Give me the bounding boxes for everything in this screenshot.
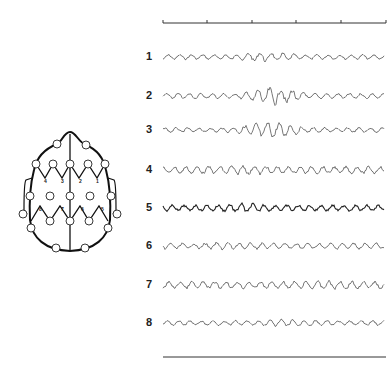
eeg-figure: 43218765 [0,0,391,371]
svg-text:1: 1 [96,178,99,184]
svg-text:3: 3 [61,178,64,184]
svg-text:7: 7 [61,206,64,212]
channel-label-6: 6 [143,239,155,251]
electrode-head-map: 43218765 [19,132,121,252]
channel-label-4: 4 [143,163,155,175]
svg-text:2: 2 [79,178,82,184]
svg-text:6: 6 [81,206,84,212]
eeg-trace-5 [163,203,384,212]
eeg-trace-2 [163,87,384,105]
eeg-trace-4 [163,165,384,175]
eeg-trace-1 [163,53,384,62]
channel-label-1: 1 [143,50,155,62]
svg-text:8: 8 [39,206,42,212]
time-scale-bar [163,20,386,23]
channel-label-8: 8 [143,316,155,328]
svg-text:5: 5 [101,206,104,212]
eeg-trace-6 [163,242,384,250]
eeg-trace-3 [163,123,384,137]
eeg-trace-8 [163,319,384,326]
eeg-trace-7 [163,280,384,289]
svg-text:4: 4 [44,178,47,184]
eeg-traces [163,53,384,326]
channel-label-5: 5 [143,201,155,213]
channel-label-3: 3 [143,123,155,135]
channel-label-7: 7 [143,278,155,290]
channel-label-2: 2 [143,89,155,101]
